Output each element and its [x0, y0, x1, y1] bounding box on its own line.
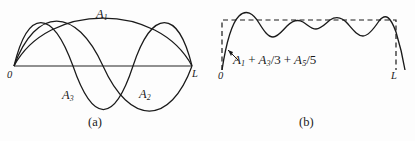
panel-b: A1+A3/3+A5/5 0 L (b) [208, 0, 415, 141]
caption-b: (b) [299, 116, 314, 129]
expr-term3-base: A [294, 52, 302, 67]
curve-label-a2-sub: 2 [147, 93, 151, 102]
axis-end-label-a: L [192, 69, 198, 80]
figure-container: A1 A3 A2 0 L (a) A1+A3/3+A5/5 0 L (b) [0, 0, 415, 141]
curve-a1 [14, 18, 192, 66]
expr-term2-base: A [258, 52, 266, 67]
axis-start-label-a: 0 [7, 70, 12, 81]
expr-term2-div: /3 [271, 52, 281, 67]
curve-label-a1: A1 [96, 8, 108, 22]
panel-a: A1 A3 A2 0 L (a) [0, 0, 208, 141]
curve-label-a2-base: A [139, 87, 147, 101]
axis-end-label-b: L [391, 71, 397, 82]
caption-a: (a) [88, 116, 102, 129]
curve-label-a3: A3 [62, 89, 74, 103]
axis-start-label-b: 0 [218, 71, 223, 82]
curve-label-a3-base: A [62, 88, 70, 102]
expression-label-b: A1+A3/3+A5/5 [233, 53, 316, 68]
expr-plus1: + [248, 52, 255, 67]
expr-plus2: + [284, 52, 291, 67]
curve-label-a2: A2 [139, 88, 151, 102]
curve-label-a3-sub: 3 [70, 94, 74, 103]
expr-term1-sub: 1 [241, 59, 245, 68]
curve-label-a1-sub: 1 [104, 13, 108, 22]
expr-term1-base: A [233, 52, 241, 67]
curve-label-a1-base: A [96, 7, 104, 21]
expr-term3-div: /5 [306, 52, 316, 67]
